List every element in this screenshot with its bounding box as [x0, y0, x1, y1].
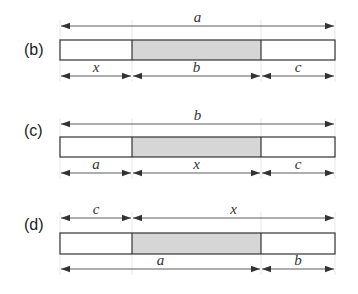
dimension-label: c: [93, 201, 100, 217]
segment-right: [261, 40, 335, 60]
arrowhead-icon: [122, 73, 131, 79]
segment-shaded: [132, 233, 261, 254]
arrowhead-icon: [122, 170, 131, 176]
arrowhead-icon: [122, 215, 131, 221]
arrowhead-icon: [133, 170, 142, 176]
arrowhead-icon: [325, 266, 334, 272]
arrowhead-icon: [61, 23, 70, 29]
dimension-label: x: [192, 156, 200, 172]
segment-shaded: [132, 40, 261, 60]
segment-shaded: [132, 137, 261, 157]
dimension-line: x: [133, 201, 334, 221]
dimension-label: a: [194, 9, 202, 25]
arrowhead-icon: [262, 266, 271, 272]
segment-right: [261, 233, 335, 254]
arrowhead-icon: [61, 215, 70, 221]
dimension-line: x: [133, 156, 260, 176]
dimension-line: b: [133, 59, 260, 79]
dimension-label: a: [92, 156, 100, 172]
arrowhead-icon: [133, 73, 142, 79]
dimension-label: a: [157, 252, 165, 268]
dimension-line: a: [61, 156, 131, 176]
dimension-line: a: [61, 252, 260, 272]
arrowhead-icon: [325, 121, 334, 127]
dimension-line: b: [61, 107, 334, 127]
arrowhead-icon: [251, 266, 260, 272]
dimension-line: x: [61, 59, 131, 79]
panel-label: (d): [24, 216, 44, 233]
dimension-label: b: [294, 252, 302, 268]
arrowhead-icon: [251, 73, 260, 79]
panel-b: (b)axbc: [24, 9, 335, 82]
dimension-label: b: [194, 107, 202, 123]
arrowhead-icon: [325, 73, 334, 79]
arrowhead-icon: [325, 23, 334, 29]
arrowhead-icon: [251, 170, 260, 176]
arrowhead-icon: [325, 215, 334, 221]
arrowhead-icon: [262, 170, 271, 176]
panel-c: (c)baxc: [24, 107, 335, 179]
dimension-label: b: [193, 59, 201, 75]
dimension-line: a: [61, 9, 334, 29]
arrowhead-icon: [133, 215, 142, 221]
arrowhead-icon: [61, 73, 70, 79]
segment-left: [60, 233, 132, 254]
dimension-line: c: [262, 59, 334, 79]
arrowhead-icon: [61, 170, 70, 176]
panel-label: (c): [24, 122, 43, 139]
arrowhead-icon: [325, 170, 334, 176]
dimension-label: x: [229, 201, 237, 217]
dimension-line: c: [262, 156, 334, 176]
segment-right: [261, 137, 335, 157]
dimension-line: c: [61, 201, 131, 221]
arrowhead-icon: [61, 266, 70, 272]
arrowhead-icon: [61, 121, 70, 127]
panel-label: (b): [24, 41, 44, 58]
dimension-line: b: [262, 252, 334, 272]
dimension-label: c: [295, 59, 302, 75]
dimension-diagram: (b)axbc(c)baxc(d)cxab: [0, 0, 358, 294]
segment-left: [60, 137, 132, 157]
dimension-label: x: [92, 59, 100, 75]
segment-left: [60, 40, 132, 60]
panel-d: (d)cxab: [24, 201, 335, 275]
dimension-label: c: [295, 156, 302, 172]
arrowhead-icon: [262, 73, 271, 79]
